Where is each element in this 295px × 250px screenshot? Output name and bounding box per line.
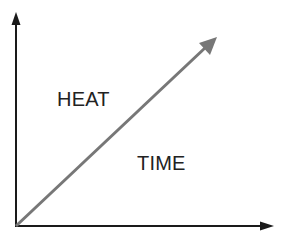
- diagram-canvas: [0, 0, 295, 250]
- diagonal-arrow: [16, 37, 217, 226]
- y-axis-arrowhead-icon: [12, 12, 21, 25]
- x-axis: [15, 222, 274, 231]
- heat-time-diagram: HEAT TIME: [0, 0, 295, 250]
- x-axis-arrowhead-icon: [260, 222, 274, 231]
- y-axis: [12, 12, 21, 227]
- time-label: TIME: [137, 153, 186, 173]
- heat-label: HEAT: [57, 89, 110, 109]
